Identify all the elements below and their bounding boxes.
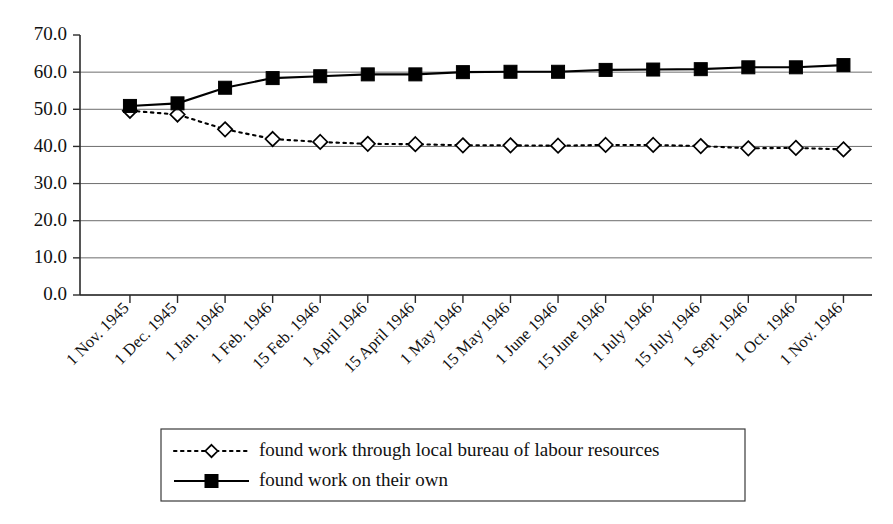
data-point-marker-diamond <box>694 139 708 153</box>
data-point-marker-square <box>647 63 660 76</box>
data-point-marker-square <box>456 66 469 79</box>
data-point-marker-diamond <box>218 122 232 136</box>
data-point-marker-diamond <box>361 137 375 151</box>
legend-label: found work through local bureau of labou… <box>259 439 659 460</box>
data-point-marker-square <box>171 97 184 110</box>
data-point-marker-square <box>552 65 565 78</box>
data-point-marker-square <box>789 61 802 74</box>
gridlines <box>80 72 872 295</box>
y-tick-label: 30.0 <box>34 172 67 193</box>
x-axis <box>80 295 872 303</box>
data-point-marker-diamond <box>313 135 327 149</box>
y-tick-label: 40.0 <box>34 135 67 156</box>
data-point-marker-diamond <box>408 137 422 151</box>
data-point-marker-square <box>599 63 612 76</box>
data-point-marker-diamond <box>456 138 470 152</box>
data-point-marker-square <box>409 68 422 81</box>
data-point-marker-square <box>837 59 850 72</box>
series-line-1 <box>130 111 844 150</box>
data-point-marker-diamond <box>836 142 850 156</box>
chart-container: 70.060.050.040.030.020.010.00.0 1 Nov. 1… <box>0 0 893 524</box>
data-point-marker-square <box>219 81 232 94</box>
legend-label: found work on their own <box>259 469 448 490</box>
data-point-marker-diamond <box>646 138 660 152</box>
data-point-marker-square <box>361 68 374 81</box>
data-point-marker-square <box>266 72 279 85</box>
data-point-marker-square <box>694 63 707 76</box>
y-tick-label: 0.0 <box>43 283 67 304</box>
data-point-marker-square <box>314 70 327 83</box>
line-chart: 70.060.050.040.030.020.010.00.0 1 Nov. 1… <box>0 0 893 524</box>
y-tick-label: 70.0 <box>34 23 67 44</box>
legend-marker-square <box>205 475 218 488</box>
y-tick-label: 60.0 <box>34 61 67 82</box>
y-axis: 70.060.050.040.030.020.010.00.0 <box>34 23 80 304</box>
y-tick-label: 20.0 <box>34 209 67 230</box>
y-tick-label: 10.0 <box>34 246 67 267</box>
data-point-marker-diamond <box>741 141 755 155</box>
x-axis-tick-labels: 1 Nov. 19451 Dec. 19451 Jan. 19461 Feb. … <box>62 298 846 376</box>
data-point-marker-diamond <box>503 138 517 152</box>
data-point-marker-diamond <box>551 138 565 152</box>
data-point-marker-square <box>742 61 755 74</box>
y-tick-label: 50.0 <box>34 98 67 119</box>
series-plot-area <box>123 59 851 157</box>
series-line-2 <box>130 65 844 106</box>
data-point-marker-diamond <box>265 132 279 146</box>
data-point-marker-diamond <box>598 138 612 152</box>
data-point-marker-square <box>123 99 136 112</box>
data-point-marker-diamond <box>789 141 803 155</box>
data-point-marker-square <box>504 65 517 78</box>
chart-legend: found work through local bureau of labou… <box>161 429 745 501</box>
